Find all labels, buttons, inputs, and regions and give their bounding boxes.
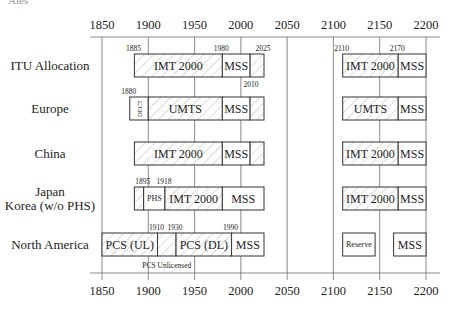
boundary-label: 2110: [334, 44, 349, 53]
row-japan-korea-w-o-phs-: JapanKorea (w/o PHS)PHSIMT 2000MSSIMT 20…: [5, 177, 426, 213]
segment-unlabeled: [250, 97, 264, 120]
bottom-tick-label: 1900: [136, 284, 161, 298]
bottom-tick-label: 2200: [414, 284, 439, 298]
segment-imt-2000: IMT 2000: [343, 187, 399, 210]
segment-label: MSS: [398, 238, 422, 252]
row-label: Europe: [31, 101, 69, 116]
bottom-tick-label: 2150: [367, 284, 392, 298]
allocation-rows: ITU AllocationIMT 2000MSSIMT 2000MSS1885…: [5, 44, 426, 270]
segment-pcs-ul-: PCS (UL): [102, 233, 158, 256]
bottom-tick-label: 1850: [90, 284, 115, 298]
row-label: China: [34, 146, 65, 161]
bottom-tick-label: 1950: [182, 284, 207, 298]
segment-mss: MSS: [232, 233, 264, 256]
segment-label: DECT: [136, 100, 143, 117]
segment-unlabeled: [250, 54, 264, 77]
boundary-label: 1895: [135, 177, 150, 186]
boundary-label: 2170: [390, 44, 405, 53]
segment-label: MSS: [231, 192, 255, 206]
segment-reserve: Reserve: [343, 233, 375, 256]
top-tick-label: 2150: [367, 18, 392, 32]
frequency-allocation-chart: 1850185019001900195019502000200020502050…: [0, 0, 454, 315]
segment-label: PCS (UL): [106, 238, 154, 252]
segment-umts: UMTS: [343, 97, 399, 120]
segment-imt-2000: IMT 2000: [134, 54, 222, 77]
segment-unlabeled: [134, 187, 143, 210]
top-tick-label: 1900: [136, 18, 161, 32]
row-label: North America: [11, 237, 89, 252]
top-tick-label: 2000: [228, 18, 253, 32]
boundary-label: 1880: [121, 87, 136, 96]
segment-umts: UMTS: [148, 97, 222, 120]
bottom-tick-label: 2100: [321, 284, 346, 298]
segment-label: MSS: [400, 59, 424, 73]
row-itu-allocation: ITU AllocationIMT 2000MSSIMT 2000MSS1885…: [10, 44, 426, 89]
segment-imt-2000: IMT 2000: [343, 54, 399, 77]
boundary-label: 1910: [149, 223, 164, 232]
row-china: ChinaIMT 2000MSSIMT 2000MSS: [34, 142, 426, 165]
segment-label: IMT 2000: [346, 147, 395, 161]
pcs-unlicensed-label: PCS Unlicensed: [142, 261, 191, 270]
segment-mss: MSS: [222, 54, 250, 77]
boundary-label: 2010: [244, 80, 259, 89]
segment-mss: MSS: [222, 97, 250, 120]
top-tick-label: 2200: [414, 18, 439, 32]
bottom-tick-label: 2000: [228, 284, 253, 298]
segment-label: MSS: [224, 59, 248, 73]
row-label: Japan: [35, 184, 65, 199]
row-label: ITU Allocation: [10, 58, 90, 73]
segment-pcs-dl-: PCS (DL): [176, 233, 232, 256]
segment-mss: MSS: [398, 97, 426, 120]
segment-phs: PHS: [144, 187, 165, 210]
boundary-label: 1930: [168, 223, 183, 232]
row-north-america: North AmericaPCS (UL)PCS (DL)MSSReserveM…: [11, 223, 426, 270]
top-tick-label: 1850: [90, 18, 115, 32]
bottom-tick-label: 2050: [275, 284, 300, 298]
segment-imt-2000: IMT 2000: [165, 187, 222, 210]
top-tick-label: 2100: [321, 18, 346, 32]
segment-label: PCS (DL): [180, 238, 228, 252]
segment-label: MSS: [236, 238, 260, 252]
segment-label: IMT 2000: [346, 192, 395, 206]
segment-mss: MSS: [222, 142, 250, 165]
segment-label: UMTS: [169, 102, 202, 116]
boundary-label: 1990: [223, 223, 238, 232]
segment-label: MSS: [400, 192, 424, 206]
boundary-label: 1918: [156, 177, 171, 186]
segment-label: MSS: [400, 147, 424, 161]
segment-label: IMT 2000: [169, 192, 218, 206]
segment-mss: MSS: [398, 142, 426, 165]
segment-mss: MSS: [222, 187, 264, 210]
row-europe: EuropeDECTUMTSMSSUMTSMSS1880: [31, 87, 426, 120]
segment-mss: MSS: [394, 233, 426, 256]
segment-label: UMTS: [354, 102, 387, 116]
segment-label: MSS: [400, 102, 424, 116]
row-label: Korea (w/o PHS): [5, 198, 95, 213]
segment-dect: DECT: [130, 97, 149, 120]
segment-mss: MSS: [398, 54, 426, 77]
segment-label: MSS: [224, 102, 248, 116]
top-tick-label: 2050: [275, 18, 300, 32]
segment-label: MSS: [224, 147, 248, 161]
segment-label: IMT 2000: [154, 147, 203, 161]
boundary-label: 1885: [126, 44, 141, 53]
segment-label: Reserve: [346, 240, 372, 249]
segment-mss: MSS: [398, 187, 426, 210]
boundary-label: 1980: [214, 44, 229, 53]
segment-imt-2000: IMT 2000: [343, 142, 399, 165]
segment-label: IMT 2000: [154, 59, 203, 73]
segment-imt-2000: IMT 2000: [134, 142, 222, 165]
segment-label: PHS: [147, 194, 162, 203]
boundary-label: 2025: [256, 44, 271, 53]
top-tick-label: 1950: [182, 18, 207, 32]
segment-unlabeled: [250, 142, 264, 165]
segment-label: IMT 2000: [346, 59, 395, 73]
segment-unlabeled: [158, 233, 177, 256]
